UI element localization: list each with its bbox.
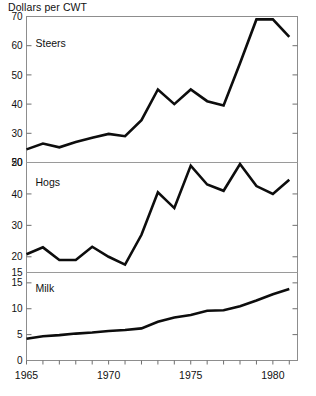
y-axis-tick-label: 10 — [11, 303, 23, 314]
data-line-steers — [27, 19, 290, 149]
x-axis-tick-label: 1980 — [261, 369, 285, 381]
y-axis-tick-label: 30 — [11, 128, 23, 139]
y-axis-tick-label: 15 — [11, 277, 23, 288]
y-axis-tick-label: 50 — [11, 70, 23, 81]
series-label-milk: Milk — [36, 282, 55, 294]
y-axis-tick-label: 40 — [11, 99, 23, 110]
x-axis-tick-label: 1970 — [97, 369, 121, 381]
plot-frame — [27, 17, 298, 361]
y-axis-tick-label: 60 — [11, 40, 23, 51]
data-line-milk — [27, 289, 290, 339]
y-axis-tick-label: 30 — [11, 220, 23, 231]
series-label-hogs: Hogs — [36, 176, 61, 188]
data-line-hogs — [27, 164, 290, 265]
y-axis-tick-label: 50 — [11, 157, 23, 168]
x-axis-tick-label: 1965 — [15, 369, 39, 381]
y-axis-tick-label: 20 — [11, 251, 23, 262]
unit-axis-label: Dollars per CWT — [8, 1, 87, 13]
x-axis-tick-label: 1975 — [179, 369, 203, 381]
series-label-steers: Steers — [36, 37, 66, 49]
y-axis-tick-label: 5 — [17, 329, 23, 340]
chart-canvas: 203040506070Steers1520304050Hogs051015Mi… — [0, 0, 316, 396]
y-axis-tick-label: 0 — [17, 355, 23, 366]
y-axis-tick-label: 15 — [11, 267, 23, 278]
livestock-prices-figure: Dollars per CWT 203040506070Steers152030… — [0, 0, 316, 396]
y-axis-tick-label: 40 — [11, 189, 23, 200]
